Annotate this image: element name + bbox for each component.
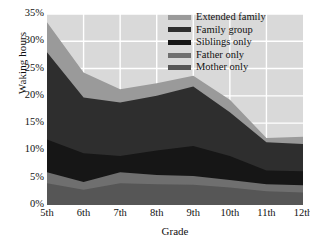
legend-swatch-icon bbox=[168, 15, 191, 20]
x-tick-label: 12th bbox=[281, 207, 310, 218]
legend-label: Mother only bbox=[196, 62, 248, 73]
y-tick-label: 25% bbox=[2, 62, 44, 73]
legend-label: Family group bbox=[196, 25, 253, 36]
legend: Extended familyFamily groupSiblings only… bbox=[168, 11, 306, 74]
legend-label: Extended family bbox=[196, 12, 266, 23]
y-tick-label: 35% bbox=[2, 7, 44, 18]
area-chart: Waking hours 0%5%10%15%20%25%30%35% 5th6… bbox=[0, 0, 310, 242]
y-tick-label: 10% bbox=[2, 143, 44, 154]
legend-item: Mother only bbox=[168, 61, 306, 74]
y-tick-label: 15% bbox=[2, 116, 44, 127]
legend-item: Extended family bbox=[168, 11, 306, 24]
y-tick-label: 5% bbox=[2, 171, 44, 182]
legend-item: Family group bbox=[168, 24, 306, 37]
legend-swatch-icon bbox=[168, 27, 191, 32]
legend-item: Father only bbox=[168, 49, 306, 62]
y-tick-label: 30% bbox=[2, 34, 44, 45]
legend-swatch-icon bbox=[168, 40, 191, 45]
x-axis-title: Grade bbox=[47, 225, 303, 237]
legend-swatch-icon bbox=[168, 53, 191, 58]
x-axis-tick-labels: 5th6th7th8th9th10th11th12th bbox=[47, 207, 303, 223]
legend-label: Siblings only bbox=[196, 37, 252, 48]
legend-label: Father only bbox=[196, 50, 244, 61]
legend-item: Siblings only bbox=[168, 36, 306, 49]
y-tick-label: 20% bbox=[2, 89, 44, 100]
legend-swatch-icon bbox=[168, 65, 191, 70]
